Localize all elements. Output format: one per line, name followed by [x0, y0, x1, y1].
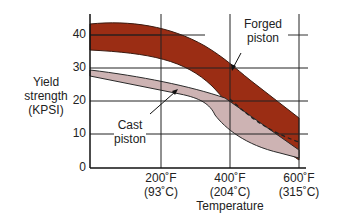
y-label-line-2: strength — [18, 89, 74, 103]
y-tick-30: 30 — [64, 61, 86, 74]
y-label-line-1: Yield — [18, 75, 74, 89]
forged-label-line-1: Forged — [238, 17, 288, 31]
x-tick-600: 600˚F (315˚C) — [271, 171, 327, 199]
x-tick-600-c: (315˚C) — [271, 185, 327, 199]
cast-label-line-1: Cast — [114, 118, 146, 132]
y-tick-0: 0 — [64, 161, 86, 174]
y-label-line-3: (KPSI) — [18, 103, 74, 117]
x-tick-400-f: 400˚F — [202, 171, 258, 185]
cast-label-line-2: piston — [114, 132, 146, 146]
y-axis-label: Yield strength (KPSI) — [18, 75, 74, 117]
x-axis-label: Temperature — [160, 199, 300, 213]
x-tick-200-f: 200˚F — [136, 171, 186, 185]
y-tick-10: 10 — [64, 127, 86, 140]
x-tick-200: 200˚F (93˚C) — [136, 171, 186, 199]
x-tick-400-c: (204˚C) — [202, 185, 258, 199]
y-tick-40: 40 — [64, 28, 86, 41]
x-tick-400: 400˚F (204˚C) — [202, 171, 258, 199]
forged-label-line-2: piston — [238, 31, 288, 45]
x-tick-200-c: (93˚C) — [136, 185, 186, 199]
x-tick-600-f: 600˚F — [271, 171, 327, 185]
cast-piston-label: Cast piston — [114, 118, 146, 146]
forged-piston-label: Forged piston — [238, 17, 288, 45]
